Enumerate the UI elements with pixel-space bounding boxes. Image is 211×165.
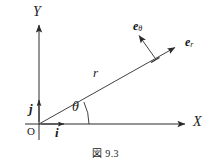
origin-label: O <box>27 126 35 137</box>
y-axis-label: Y <box>33 5 41 19</box>
radial-vector-line <box>39 48 175 125</box>
e-r-label: er <box>185 36 193 49</box>
basis-i-label: i <box>55 126 59 139</box>
e-theta-vector-line <box>139 36 155 59</box>
radial-distance-label: r <box>93 66 98 79</box>
theta-arc <box>84 102 89 124</box>
theta-angle-label: θ <box>72 100 79 114</box>
e-theta-subscript: θ <box>138 24 142 33</box>
e-r-subscript: r <box>190 40 193 49</box>
polar-coordinates-diagram <box>0 0 211 165</box>
x-axis-label: X <box>193 115 202 129</box>
figure-caption: 図 9.3 <box>0 145 211 160</box>
e-theta-label: eθ <box>133 20 142 33</box>
figure-container: Y X O r θ i j eθ er 図 9.3 <box>0 0 211 165</box>
basis-j-label: j <box>29 102 33 115</box>
